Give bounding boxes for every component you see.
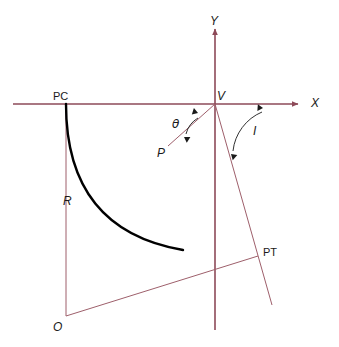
construction-lines-group xyxy=(66,104,272,316)
x-axis-label: X xyxy=(310,96,320,110)
measure-label-theta: θ xyxy=(172,117,180,131)
I-arc-head-start xyxy=(257,104,263,111)
axes-group: X Y xyxy=(13,14,320,330)
theta-arc-head-end xyxy=(182,134,190,143)
circular-curve xyxy=(66,104,183,250)
measure-label-i: I xyxy=(253,124,257,138)
theta-arc-head-start xyxy=(192,108,199,116)
point-label-v: V xyxy=(217,89,226,103)
point-label-pc: PC xyxy=(53,90,68,102)
point-label-p: P xyxy=(157,146,165,160)
curve-geometry-diagram: X Y PCVPPTO RθI xyxy=(0,0,339,347)
point-label-o: O xyxy=(53,320,62,334)
y-axis-label: Y xyxy=(210,14,219,28)
I-arc xyxy=(233,112,262,151)
tangent-v-pt xyxy=(215,104,272,305)
diagram-canvas: X Y PCVPPTO RθI xyxy=(0,0,339,347)
point-label-pt: PT xyxy=(263,246,277,258)
radius-o-pt xyxy=(66,256,258,316)
measure-labels-group: RθI xyxy=(63,117,257,208)
measure-label-r: R xyxy=(63,194,72,208)
